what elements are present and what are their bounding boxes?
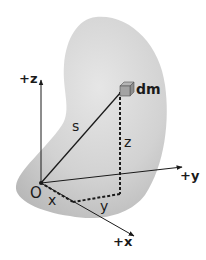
position-vector-label: s [72,119,79,133]
y-axis-label: +y [180,169,199,182]
mass-element-cube-icon [120,82,134,96]
x-component-label: x [48,193,56,207]
mass-element-label: dm [136,82,161,96]
z-axis-label: +z [19,72,37,85]
z-component-label: z [124,135,131,149]
y-component-label: y [100,199,108,213]
x-axis-label: +x [113,235,132,248]
diagram-canvas [0,0,206,260]
diagram-figure: +z +y +x O dm s z x y [0,0,206,260]
origin-label: O [30,186,42,201]
